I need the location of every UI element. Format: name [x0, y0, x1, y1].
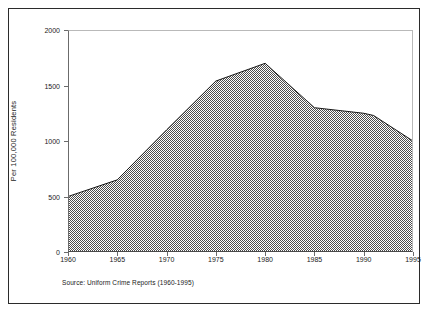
plot-frame: [68, 30, 413, 252]
x-tick-mark: [413, 252, 414, 256]
y-tick-label: 1500: [0, 82, 60, 89]
x-tick-label: 1960: [48, 256, 88, 263]
y-tick-label: 0: [0, 249, 60, 256]
x-tick-mark: [167, 252, 168, 256]
chart-figure: Per 100,000 Residents 0500100015002000 1…: [0, 0, 428, 312]
y-tick-label: 1000: [0, 138, 60, 145]
x-tick-mark: [364, 252, 365, 256]
source-note: Source: Uniform Crime Reports (1960-1995…: [62, 279, 194, 286]
x-tick-label: 1965: [97, 256, 137, 263]
x-tick-label: 1995: [393, 256, 428, 263]
x-tick-mark: [265, 252, 266, 256]
x-tick-label: 1985: [294, 256, 334, 263]
y-tick-label: 500: [0, 193, 60, 200]
x-tick-label: 1990: [344, 256, 384, 263]
x-tick-label: 1970: [147, 256, 187, 263]
plot-area: [68, 30, 413, 252]
x-tick-mark: [117, 252, 118, 256]
x-tick-mark: [314, 252, 315, 256]
x-tick-label: 1980: [245, 256, 285, 263]
y-tick-label: 2000: [0, 27, 60, 34]
x-tick-mark: [216, 252, 217, 256]
x-tick-label: 1975: [196, 256, 236, 263]
x-tick-mark: [68, 252, 69, 256]
